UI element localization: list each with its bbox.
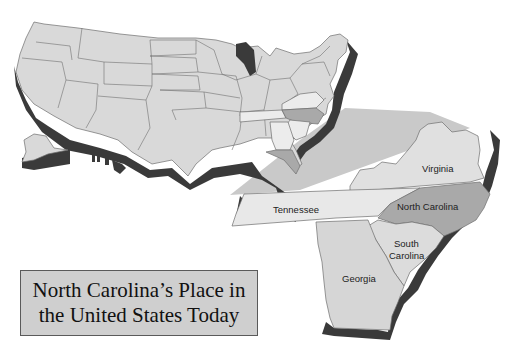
map-title-line1: North Carolina’s Place in — [33, 278, 246, 303]
label-tennessee: Tennessee — [273, 204, 319, 215]
label-virginia: Virginia — [422, 163, 454, 174]
label-south-carolina-line1: South — [394, 238, 419, 249]
map-title-line2: the United States Today — [39, 303, 240, 328]
map-title-box: North Carolina’s Place in the United Sta… — [20, 270, 258, 336]
label-georgia: Georgia — [342, 273, 377, 284]
label-north-carolina: North Carolina — [397, 201, 459, 212]
label-south-carolina-line2: Carolina — [389, 250, 425, 261]
